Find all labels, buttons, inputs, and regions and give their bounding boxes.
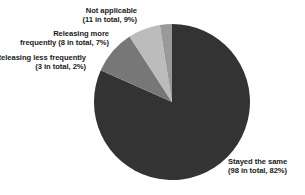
slice-label-releasing-less-frequently-line1: Releasing less frequently bbox=[0, 53, 86, 62]
pie-slice-group bbox=[94, 24, 250, 180]
slice-label-releasing-less-frequently: Releasing less frequently (3 in total, 2… bbox=[0, 53, 86, 72]
slice-label-releasing-more-frequently-line1: Releasing more bbox=[20, 29, 109, 38]
slice-label-stayed-the-same: Stayed the same (98 in total, 82%) bbox=[228, 157, 287, 176]
pie-chart-figure: Not applicable (11 in total, 9%) Releasi… bbox=[0, 0, 305, 195]
slice-label-not-applicable-line1: Not applicable bbox=[83, 6, 137, 15]
slice-label-releasing-more-frequently-line2: frequently (8 in total, 7%) bbox=[20, 38, 109, 47]
slice-label-releasing-less-frequently-line2: (3 in total, 2%) bbox=[0, 62, 86, 71]
slice-label-stayed-the-same-line2: (98 in total, 82%) bbox=[228, 166, 287, 175]
slice-label-not-applicable-line2: (11 in total, 9%) bbox=[83, 15, 137, 24]
slice-label-releasing-more-frequently: Releasing more frequently (8 in total, 7… bbox=[20, 29, 109, 48]
slice-label-stayed-the-same-line1: Stayed the same bbox=[228, 157, 287, 166]
slice-label-not-applicable: Not applicable (11 in total, 9%) bbox=[83, 6, 137, 25]
